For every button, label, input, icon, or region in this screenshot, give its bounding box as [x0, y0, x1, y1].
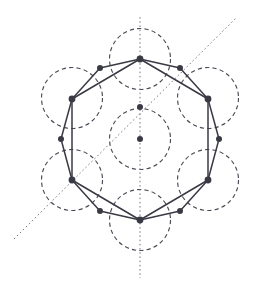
upper-center-node: [137, 104, 143, 110]
vertex-node-v-lower-right: [205, 177, 212, 184]
vertex-node-v-bottom-right: [177, 208, 183, 214]
vertex-node-v-upper-left: [69, 96, 76, 103]
figure-root: [0, 0, 253, 292]
vertex-node-v-lower-left: [69, 177, 76, 184]
vertex-node-v-top-right: [177, 65, 183, 71]
vertex-node-v-top-left: [97, 65, 103, 71]
vertex-node-v-bottom-left: [97, 208, 103, 214]
geometry-figure: [0, 0, 253, 292]
vertex-node-v-left: [58, 136, 64, 142]
figure-background: [0, 0, 253, 292]
vertex-node-v-bottom: [137, 217, 144, 224]
vertex-node-v-right: [216, 136, 222, 142]
vertex-node-v-top: [137, 56, 144, 63]
center-node: [137, 136, 143, 142]
vertex-node-v-upper-right: [205, 96, 212, 103]
